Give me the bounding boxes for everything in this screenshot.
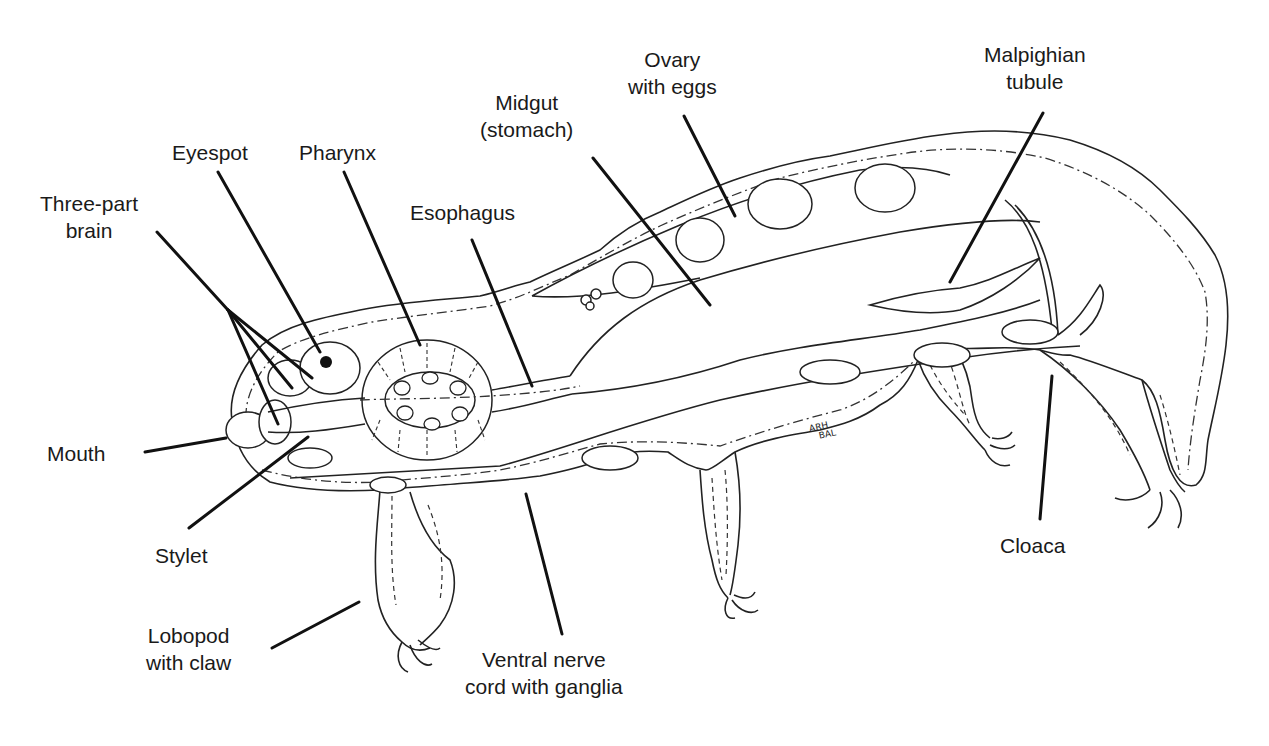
eyespot-dot <box>320 356 332 368</box>
leg-4 <box>1040 350 1185 492</box>
leader-brain-d <box>228 310 278 424</box>
malpighian-tubule <box>870 258 1040 313</box>
brain-lobe-2 <box>300 342 360 394</box>
label-malpighian-line-1: Malpighian <box>984 41 1086 68</box>
label-malpighian-line-2: tubule <box>984 68 1086 95</box>
esophagus-tube <box>492 376 572 412</box>
leader-brain-b <box>228 310 312 378</box>
eggs <box>581 164 915 310</box>
label-malpighian-tubule: Malpighian tubule <box>984 41 1086 95</box>
label-three-part-brain: Three-part brain <box>40 190 138 244</box>
leader-pharynx <box>344 172 420 345</box>
leader-ovary <box>684 116 735 216</box>
label-brain-line-1: Three-part <box>40 190 138 217</box>
label-eyespot: Eyespot <box>172 139 248 166</box>
label-ventral-line-1: Ventral nerve <box>465 646 623 673</box>
leg-4-inner <box>1060 362 1180 475</box>
leader-esophagus <box>472 240 532 386</box>
leader-cloaca <box>1040 376 1052 519</box>
leader-stylet <box>189 437 308 528</box>
label-lobopod: Lobopod with claw <box>146 622 231 676</box>
label-pharynx: Pharynx <box>299 139 376 166</box>
leader-brain-a <box>157 232 228 310</box>
label-lobopod-line-2: with claw <box>146 649 231 676</box>
label-stylet: Stylet <box>155 542 208 569</box>
label-pharynx-line-1: Pharynx <box>299 139 376 166</box>
label-esophagus-line-1: Esophagus <box>410 199 515 226</box>
label-midgut-line-1: Midgut <box>480 89 573 116</box>
stylet-sheath <box>259 400 291 444</box>
label-cloaca-line-1: Cloaca <box>1000 532 1065 559</box>
label-lobopod-line-1: Lobopod <box>146 622 231 649</box>
leg-2 <box>700 452 740 598</box>
label-ventral-nerve-cord: Ventral nerve cord with ganglia <box>465 646 623 700</box>
label-ventral-line-2: cord with ganglia <box>465 673 623 700</box>
label-ovary-line-2: with eggs <box>628 73 717 100</box>
label-midgut: Midgut (stomach) <box>480 89 573 143</box>
label-brain-line-2: brain <box>40 217 138 244</box>
label-mouth: Mouth <box>47 440 105 467</box>
label-cloaca: Cloaca <box>1000 532 1065 559</box>
label-esophagus: Esophagus <box>410 199 515 226</box>
leader-malpighian <box>950 113 1043 282</box>
leg-2-inner <box>712 470 727 580</box>
label-ovary-line-1: Ovary <box>628 46 717 73</box>
leg-4-claw <box>1115 490 1181 528</box>
label-eyespot-line-1: Eyespot <box>172 139 248 166</box>
leader-lobopod <box>272 602 359 648</box>
leg-2-claw <box>725 592 758 618</box>
leader-ventral-nerve <box>526 494 562 634</box>
label-midgut-line-2: (stomach) <box>480 116 573 143</box>
leader-mouth <box>145 438 226 452</box>
label-stylet-line-1: Stylet <box>155 542 208 569</box>
label-ovary: Ovary with eggs <box>628 46 717 100</box>
label-mouth-line-1: Mouth <box>47 440 105 467</box>
